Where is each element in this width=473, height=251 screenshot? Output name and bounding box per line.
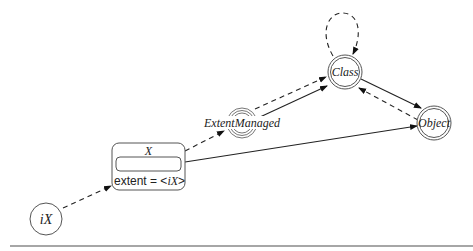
node-ix-label: iX — [40, 212, 53, 227]
edge-extentmanaged-to-class-solid — [260, 86, 327, 117]
node-x-compartment — [116, 157, 181, 171]
edge-x-to-extentmanaged — [185, 131, 224, 151]
node-x[interactable]: X extent = <iX> — [112, 143, 185, 190]
node-x-title: X — [144, 144, 153, 158]
node-class-label: Class — [332, 65, 359, 79]
node-object[interactable]: Object — [417, 106, 451, 140]
edge-extentmanaged-to-class-dashed — [255, 77, 326, 109]
edge-ix-to-x — [63, 186, 111, 208]
edge-class-self-loop — [326, 13, 358, 56]
node-x-attribute: extent = <iX> — [114, 174, 185, 188]
edge-x-to-object — [185, 126, 417, 162]
diagram-canvas: iX X extent = <iX> ExtentManaged Class O… — [0, 0, 473, 251]
node-object-label: Object — [418, 116, 451, 130]
node-class[interactable]: Class — [328, 55, 362, 89]
node-ix[interactable]: iX — [30, 203, 62, 235]
node-extentmanaged-label: ExtentManaged — [203, 116, 281, 130]
